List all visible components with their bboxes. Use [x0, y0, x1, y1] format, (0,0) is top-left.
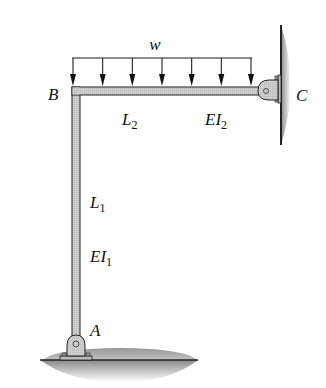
joint-b-label: B	[48, 85, 59, 104]
load-label: w	[149, 35, 161, 54]
span2-length-label: L2	[121, 110, 137, 132]
span1-stiffness-label: EI1	[89, 247, 112, 269]
arrowhead-icon	[129, 74, 135, 86]
distributed-load	[70, 58, 254, 86]
arrowhead-icon	[218, 74, 224, 86]
span1-length-label: L1	[89, 193, 105, 215]
span2-stiffness-label: EI2	[204, 110, 227, 132]
arrowhead-icon	[70, 74, 76, 86]
arrowhead-icon	[100, 74, 106, 86]
column-ab	[72, 87, 80, 342]
pin-support-c	[258, 75, 281, 103]
beam-bc	[72, 87, 268, 95]
frame-diagram: w B C A L2 EI2 L1 EI1	[0, 0, 326, 388]
arrowhead-icon	[248, 74, 254, 86]
arrowhead-icon	[159, 74, 165, 86]
pin-support-a	[60, 335, 92, 360]
joint-c-label: C	[296, 86, 308, 105]
joint-a-label: A	[89, 321, 101, 340]
load-arrows	[70, 58, 254, 86]
arrowhead-icon	[189, 74, 195, 86]
wall-support	[281, 25, 291, 145]
